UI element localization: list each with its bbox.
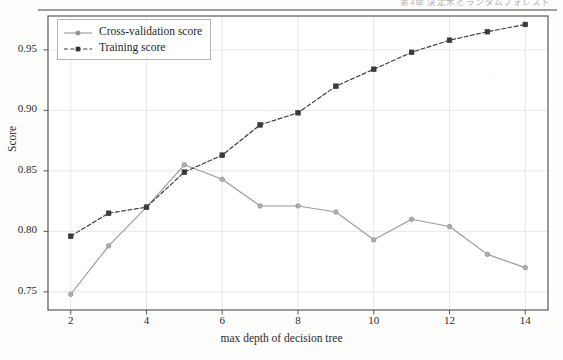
x-axis-label: max depth of decision tree [0, 332, 563, 344]
y-tick-label: 0.95 [18, 42, 37, 54]
validation-curve-chart: Score max depth of decision tree 0.750.8… [0, 0, 563, 360]
chart-legend: Cross-validation score Training score [57, 19, 211, 60]
document-page: 第4章 決定木とランダムフォレスト Score max depth of dec… [0, 0, 563, 360]
y-tick-label: 0.80 [18, 223, 37, 235]
x-tick-label: 14 [520, 314, 531, 326]
y-tick-label: 0.75 [18, 284, 37, 296]
y-tick-label: 0.85 [18, 163, 37, 175]
y-tick-label: 0.90 [18, 102, 37, 114]
x-tick-label: 10 [368, 314, 379, 326]
x-tick-label: 8 [295, 314, 301, 326]
legend-label-training-score: Training score [99, 41, 165, 53]
x-tick-label: 2 [68, 314, 74, 326]
legend-item-cross-validation-score: Cross-validation score [63, 23, 202, 39]
legend-swatch-training-score [63, 41, 93, 53]
legend-label-cross-validation-score: Cross-validation score [99, 25, 202, 37]
x-tick-label: 6 [219, 314, 225, 326]
x-tick-label: 4 [144, 314, 150, 326]
legend-swatch-cross-validation-score [63, 25, 93, 37]
x-tick-label: 12 [444, 314, 455, 326]
legend-item-training-score: Training score [63, 39, 202, 55]
y-axis-label: Score [6, 126, 18, 152]
